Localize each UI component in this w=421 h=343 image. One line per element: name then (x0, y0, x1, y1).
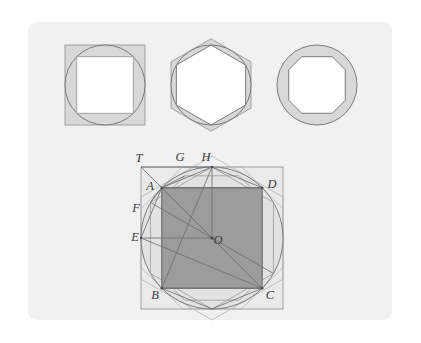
label-E: E (130, 230, 139, 244)
label-A: A (145, 179, 154, 193)
label-B: B (151, 288, 159, 302)
composite-figure: T G H A D F E O B C (130, 150, 283, 320)
point-C (261, 287, 264, 290)
inscribed-square-fill (77, 57, 134, 114)
label-C: C (266, 288, 275, 302)
octagon-figure (277, 45, 357, 125)
label-O: O (213, 233, 222, 247)
point-B (160, 287, 163, 290)
hexagon-figure (171, 39, 251, 131)
label-G: G (175, 150, 184, 164)
label-T: T (136, 151, 144, 165)
figure-page: T G H A D F E O B C (0, 0, 421, 343)
inscribed-octagon-fill (289, 57, 346, 114)
label-F: F (131, 201, 140, 215)
square-figure (65, 45, 145, 125)
point-A (160, 186, 163, 189)
geometry-diagram-svg: T G H A D F E O B C (0, 0, 421, 343)
point-E (140, 237, 142, 239)
point-D (261, 186, 264, 189)
point-H (211, 166, 213, 168)
label-D: D (266, 177, 276, 191)
label-H: H (200, 150, 211, 164)
